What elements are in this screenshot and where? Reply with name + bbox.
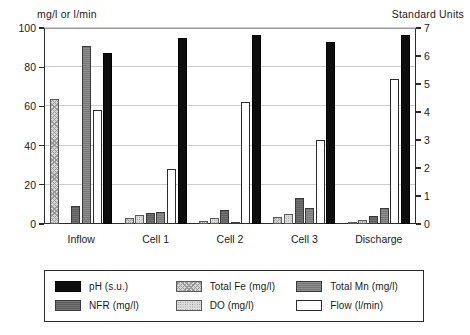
legend-label: Total Mn (mg/l) [330,281,398,292]
bar-do [210,218,219,224]
right-axis-tick [416,111,421,112]
bar-mn [380,208,389,224]
legend-grid: pH (s.u.)Total Fe (mg/l)Total Mn (mg/l)N… [45,271,423,321]
x-axis-category-label: Cell 3 [291,233,318,245]
right-axis-tick-label: 7 [424,22,430,34]
left-axis-tick-label: 60 [24,100,36,112]
bar-flow [93,110,102,224]
right-axis-tick-label: 3 [424,134,430,146]
right-axis-tick [416,83,421,84]
bar-mn [82,46,91,224]
left-axis-unit-label: mg/l or l/min [37,8,97,20]
x-axis-category-label: Cell 2 [217,233,244,245]
legend: pH (s.u.)Total Fe (mg/l)Total Mn (mg/l)N… [44,270,424,322]
bar-ph [252,35,261,224]
bar-flow [241,102,250,224]
legend-item: Flow (l/min) [296,298,413,314]
legend-label: Total Fe (mg/l) [210,281,275,292]
right-axis-tick [416,139,421,140]
legend-item: Total Mn (mg/l) [296,279,413,295]
legend-item: DO (mg/l) [176,298,293,314]
bar-group: Cell 2 [193,28,267,224]
left-axis-tick-label: 0 [30,218,36,230]
bar-group: Inflow [44,28,118,224]
bar-group: Cell 1 [118,28,192,224]
right-axis-tick [416,223,421,224]
legend-item: Total Fe (mg/l) [176,279,293,295]
right-axis-tick [416,167,421,168]
bar-nfr [71,206,80,224]
bar-do [358,220,367,224]
right-axis-unit-label: Standard Units [392,8,464,20]
bar-nfr [146,213,155,224]
bar-group: Cell 3 [267,28,341,224]
bar-flow [316,140,325,224]
bar-mn [156,212,165,224]
legend-swatch-ph [55,281,81,292]
right-axis-tick-label: 6 [424,50,430,62]
bar-fe [199,221,208,224]
bar-ph [401,35,410,224]
x-axis-category-label: Discharge [355,233,402,245]
bar-mn [305,208,314,224]
legend-label: Flow (l/min) [330,300,383,311]
plot-area: 100806040200 76543210 InflowCell 1Cell 2… [44,28,416,224]
right-axis-tick-label: 5 [424,78,430,90]
right-axis-tick-label: 2 [424,162,430,174]
legend-item: pH (s.u.) [55,279,172,295]
right-axis-tick-label: 0 [424,218,430,230]
legend-swatch-do [176,300,202,311]
bar-fe [125,218,134,224]
bar-do [135,215,144,224]
left-axis-tick-label: 20 [24,179,36,191]
legend-swatch-nfr [55,300,81,311]
left-axis-tick-label: 40 [24,140,36,152]
left-axis-tick-label: 80 [24,61,36,73]
legend-swatch-mn [296,281,322,292]
legend-label: DO (mg/l) [210,300,254,311]
chart-page: mg/l or l/min Standard Units 10080604020… [0,0,470,335]
bar-fe [273,217,282,224]
bar-fe [50,99,59,224]
legend-item: NFR (mg/l) [55,298,172,314]
bar-fe [348,222,357,224]
bar-do [284,214,293,224]
right-axis-tick [416,27,421,28]
bar-ph [103,53,112,224]
legend-label: NFR (mg/l) [89,300,139,311]
bar-nfr [295,198,304,224]
x-axis-category-label: Cell 1 [142,233,169,245]
bar-mn [231,222,240,224]
bar-ph [178,38,187,224]
bar-nfr [369,216,378,224]
right-axis-tick-label: 1 [424,190,430,202]
right-axis-tick-label: 4 [424,106,430,118]
legend-swatch-fe [176,281,202,292]
right-axis-tick [416,55,421,56]
bar-ph [326,42,335,224]
bar-flow [390,79,399,224]
x-axis-category-label: Inflow [67,233,94,245]
bar-flow [167,169,176,224]
legend-label: pH (s.u.) [89,281,128,292]
right-axis-tick [416,195,421,196]
legend-swatch-flow [296,300,322,311]
bar-group: Discharge [342,28,416,224]
left-axis-tick-label: 100 [18,22,36,34]
bar-nfr [220,210,229,224]
